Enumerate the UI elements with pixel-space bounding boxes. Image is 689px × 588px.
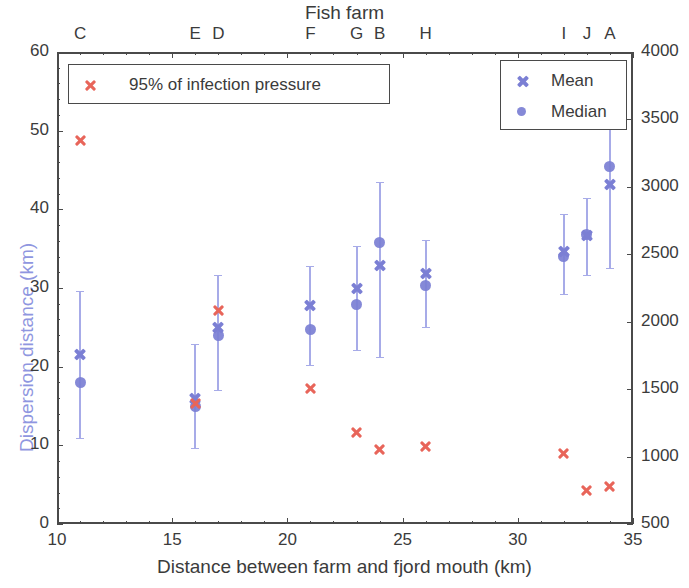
error-bar-cap-top bbox=[422, 240, 430, 241]
x-tick-major-top bbox=[403, 52, 404, 58]
mean-marker-h bbox=[419, 267, 432, 280]
y-tick-label-left: 10 bbox=[1, 434, 49, 454]
y-tick-left-minor bbox=[57, 257, 60, 258]
mean-marker-g bbox=[350, 282, 363, 295]
y-tick-label-left: 0 bbox=[1, 513, 49, 533]
x-tick-label: 10 bbox=[37, 530, 77, 550]
y-tick-label-right: 2500 bbox=[641, 243, 689, 263]
x-tick-major bbox=[172, 518, 173, 524]
y-tick-left-minor bbox=[57, 178, 60, 179]
y-tick-label-left: 30 bbox=[1, 277, 49, 297]
y-tick-left-major bbox=[57, 52, 63, 53]
legend-circle-icon bbox=[515, 105, 529, 119]
x-tick-label: 20 bbox=[267, 530, 307, 550]
error-bar-cap-bottom bbox=[422, 327, 430, 328]
median-marker-g bbox=[351, 299, 362, 310]
x-tick-major-top bbox=[633, 52, 634, 58]
farm-label-a: A bbox=[595, 24, 625, 44]
x-tick-label: 15 bbox=[152, 530, 192, 550]
y-tick-left-major bbox=[57, 367, 63, 368]
x-tick-minor bbox=[541, 521, 542, 524]
legend-label: Median bbox=[551, 102, 607, 122]
legend-label: Mean bbox=[551, 71, 594, 91]
error-bar-cap-top bbox=[76, 291, 84, 292]
y-tick-right-major bbox=[627, 119, 633, 120]
x-tick-minor bbox=[103, 521, 104, 524]
y-tick-left-minor bbox=[57, 335, 60, 336]
mean-x-icon bbox=[516, 75, 529, 88]
y-tick-left-minor bbox=[57, 430, 60, 431]
y-tick-left-minor bbox=[57, 493, 60, 494]
infection-x-icon bbox=[84, 79, 97, 92]
y-tick-right-major bbox=[627, 52, 633, 53]
y-tick-left-minor bbox=[57, 241, 60, 242]
y-axis-label-left: Dispersion distance (km) bbox=[16, 243, 38, 452]
y-tick-label-left: 20 bbox=[1, 356, 49, 376]
median-marker-b bbox=[374, 237, 385, 248]
median-marker-h bbox=[420, 280, 431, 291]
infection-pressure-marker-j bbox=[580, 484, 593, 497]
x-tick-minor bbox=[310, 521, 311, 524]
error-bar-cap-top bbox=[191, 344, 199, 345]
x-tick-minor-top bbox=[103, 52, 104, 55]
x-tick-minor bbox=[218, 521, 219, 524]
x-axis-label: Distance between farm and fjord mouth (k… bbox=[0, 556, 689, 578]
x-tick-minor bbox=[149, 521, 150, 524]
x-tick-minor-top bbox=[564, 52, 565, 55]
mean-marker-f bbox=[304, 299, 317, 312]
infection-pressure-marker-g bbox=[350, 426, 363, 439]
y-tick-right-major bbox=[627, 524, 633, 525]
infection-pressure-marker-b bbox=[373, 443, 386, 456]
x-tick-minor-top bbox=[195, 52, 196, 55]
y-tick-left-minor bbox=[57, 319, 60, 320]
y-tick-left-minor bbox=[57, 83, 60, 84]
error-bar-cap-bottom bbox=[306, 365, 314, 366]
y-tick-left-major bbox=[57, 131, 63, 132]
farm-label-h: H bbox=[411, 24, 441, 44]
x-tick-minor bbox=[380, 521, 381, 524]
infection-pressure-marker-h bbox=[419, 440, 432, 453]
x-tick-minor bbox=[472, 521, 473, 524]
infection-pressure-marker-f bbox=[304, 382, 317, 395]
x-tick-minor bbox=[357, 521, 358, 524]
x-tick-minor-top bbox=[333, 52, 334, 55]
x-tick-major-top bbox=[172, 52, 173, 58]
x-tick-minor bbox=[80, 521, 81, 524]
error-bar-cap-bottom bbox=[560, 294, 568, 295]
infection-pressure-marker-a bbox=[603, 480, 616, 493]
x-tick-minor-top bbox=[587, 52, 588, 55]
x-tick-major bbox=[287, 518, 288, 524]
x-tick-minor-top bbox=[610, 52, 611, 55]
x-tick-minor-top bbox=[149, 52, 150, 55]
x-tick-minor bbox=[333, 521, 334, 524]
y-tick-left-minor bbox=[57, 304, 60, 305]
infection-pressure-marker-i bbox=[557, 447, 570, 460]
x-tick-label: 30 bbox=[498, 530, 538, 550]
median-icon bbox=[517, 107, 526, 116]
x-tick-label: 25 bbox=[383, 530, 423, 550]
y-tick-label-left: 40 bbox=[1, 198, 49, 218]
x-tick-major bbox=[403, 518, 404, 524]
y-tick-label-right: 500 bbox=[641, 513, 689, 533]
x-tick-minor-top bbox=[80, 52, 81, 55]
x-tick-minor bbox=[495, 521, 496, 524]
x-tick-minor-top bbox=[380, 52, 381, 55]
infection-pressure-marker-d bbox=[212, 304, 225, 317]
median-marker-f bbox=[305, 324, 316, 335]
y-tick-left-minor bbox=[57, 272, 60, 273]
legend-label: 95% of infection pressure bbox=[129, 75, 321, 95]
farm-label-c: C bbox=[65, 24, 95, 44]
y-tick-left-minor bbox=[57, 351, 60, 352]
x-tick-minor-top bbox=[357, 52, 358, 55]
x-tick-minor-top bbox=[426, 52, 427, 55]
y-tick-left-major bbox=[57, 288, 63, 289]
mean-marker-i bbox=[557, 245, 570, 258]
y-tick-left-minor bbox=[57, 414, 60, 415]
x-tick-minor-top bbox=[241, 52, 242, 55]
y-tick-left-minor bbox=[57, 225, 60, 226]
mean-marker-d bbox=[212, 321, 225, 334]
y-tick-left-major bbox=[57, 445, 63, 446]
y-tick-left-minor bbox=[57, 477, 60, 478]
y-tick-left-minor bbox=[57, 382, 60, 383]
y-tick-label-right: 2000 bbox=[641, 311, 689, 331]
